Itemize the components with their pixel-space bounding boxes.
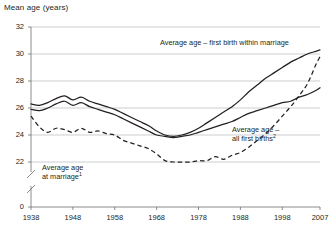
- x-tick-label: 1988: [225, 213, 255, 222]
- annotation-first-birth-within-marriage: Average age – first birth within marriag…: [160, 38, 289, 47]
- y-tick-label: 0: [8, 202, 24, 211]
- annotation-all-first-births-line2-text: all first births: [232, 134, 273, 143]
- y-tick-label: 26: [8, 103, 24, 112]
- x-tick-label: 2007: [305, 213, 333, 222]
- annotation-age-at-marriage-line1: Average age: [42, 163, 83, 172]
- y-tick-label: 30: [8, 49, 24, 58]
- annotation-age-at-marriage: Average age at marriage1: [42, 163, 83, 181]
- y-tick-label: 24: [8, 130, 24, 139]
- x-tick-label: 1978: [184, 213, 214, 222]
- y-tick-label: 28: [8, 76, 24, 85]
- annotation-all-first-births-line2: all first births2: [232, 134, 279, 143]
- annotation-age-at-marriage-line2: at marriage1: [42, 172, 83, 181]
- x-tick-label: 1968: [142, 213, 172, 222]
- tickmarks-group: [28, 27, 320, 210]
- y-tick-label: 32: [8, 22, 24, 31]
- series-line-2: [31, 57, 320, 162]
- x-tick-label: 1948: [58, 213, 88, 222]
- x-tick-label: 1938: [16, 213, 46, 222]
- annotation-first-birth-within-marriage-text: Average age – first birth within marriag…: [160, 38, 289, 47]
- annotation-all-first-births-superscript: 2: [273, 133, 276, 139]
- data-series-group: [31, 50, 320, 162]
- x-tick-label: 1998: [267, 213, 297, 222]
- x-tick-label: 1958: [100, 213, 130, 222]
- y-tick-label: 22: [8, 157, 24, 166]
- annotation-age-at-marriage-line2-text: at marriage: [42, 172, 79, 181]
- annotation-all-first-births: Average age – all first births2: [232, 125, 279, 143]
- annotation-age-at-marriage-superscript: 1: [79, 171, 82, 177]
- series-line-0: [31, 50, 320, 136]
